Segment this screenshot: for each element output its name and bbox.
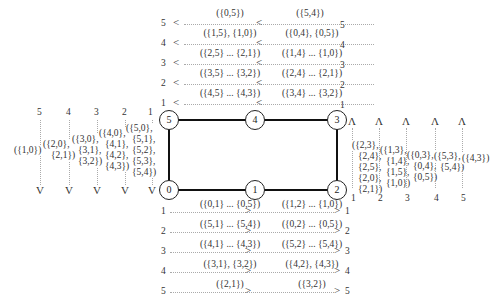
bottom-arrow-right: > (334, 265, 340, 276)
left-label-line: ({1,0}) (14, 145, 41, 156)
top-level-right: 1 (340, 100, 345, 111)
left-label-line: {5,2}, (132, 145, 155, 156)
right-level: 4 (434, 193, 439, 204)
left-arrow: V (36, 185, 44, 196)
node-1: 1 (245, 180, 265, 200)
left-level: 3 (94, 107, 99, 118)
right-label-line: ({5,3}, (434, 151, 461, 162)
right-level: 2 (378, 193, 383, 204)
right-arrow: Λ (402, 116, 410, 127)
top-arrow-mid: < (256, 17, 262, 28)
bottom-arrow-right: > (334, 285, 340, 296)
right-label-line: ({2,3}, (352, 140, 379, 151)
left-level: 1 (148, 107, 153, 118)
left-label-line: {3,1}, (78, 145, 101, 156)
top-level-left: 5 (161, 18, 166, 29)
bottom-arrow-mid: > (245, 225, 251, 236)
right-label-line: {2,4}, (358, 151, 381, 162)
node-2: 2 (327, 180, 347, 200)
right-arrow: Λ (348, 116, 356, 127)
right-level: 5 (461, 193, 466, 204)
left-arrow: V (148, 185, 156, 196)
left-arrow: V (121, 185, 129, 196)
top-dotted-line (184, 104, 374, 105)
right-label-line: {2,0}, (358, 173, 381, 184)
left-label-line: ({3,0}, (72, 134, 99, 145)
left-level: 4 (66, 107, 71, 118)
right-level: 1 (351, 193, 356, 204)
right-arrow: Λ (431, 116, 439, 127)
node-3: 3 (327, 110, 347, 130)
left-label-line: ({2,0}, (43, 139, 70, 150)
left-label-line: {5,3}, (132, 156, 155, 167)
bottom-dotted-line (170, 212, 334, 213)
top-level-left: 2 (161, 78, 166, 89)
node-5: 5 (159, 110, 179, 130)
left-arrow: V (65, 185, 73, 196)
left-label-line: {3,2}) (78, 156, 102, 167)
right-label-line: {0,5}) (413, 172, 437, 183)
node-4: 4 (245, 110, 265, 130)
left-label-line: {2,1}) (51, 150, 75, 161)
left-level: 5 (37, 107, 42, 118)
right-label-line: ({4,3}) (462, 153, 489, 164)
left-label-line: {4,1}, (105, 139, 128, 150)
bottom-arrow-right: > (334, 225, 340, 236)
top-right-label: ({2,4} ... {2,1}) (262, 68, 362, 79)
right-label-line: {5,4}) (440, 162, 464, 173)
bottom-dotted-line (170, 292, 334, 293)
right-dotted-line (352, 128, 353, 188)
bottom-level-right: 5 (345, 286, 350, 297)
right-level: 3 (405, 193, 410, 204)
bottom-dotted-line (170, 272, 334, 273)
left-label-line: ({5,0}, (126, 123, 153, 134)
top-right-label: ({1,4} ... {1,0}) (262, 48, 362, 59)
top-right-label: ({5,4}) (270, 8, 350, 19)
bottom-level-right: 4 (345, 266, 350, 277)
right-arrow: Λ (375, 116, 383, 127)
right-dotted-line (379, 128, 380, 188)
right-label-line: ({1,3}, (380, 145, 407, 156)
top-arrow-left: < (173, 97, 179, 108)
bottom-dotted-line (170, 252, 334, 253)
right-label-line: {0,4}, (413, 161, 436, 172)
left-label-line: {4,2}, (105, 150, 128, 161)
bottom-level-right: 3 (345, 246, 350, 257)
top-dotted-line (184, 44, 374, 45)
bottom-level-left: 5 (161, 286, 166, 297)
left-label-line: {4,3}) (105, 161, 129, 172)
top-arrow-left: < (173, 77, 179, 88)
top-arrow-left: < (173, 37, 179, 48)
top-level-left: 1 (161, 98, 166, 109)
top-right-label: ({3,4} ... {3,2}) (262, 88, 362, 99)
left-level: 2 (122, 107, 127, 118)
bottom-level-left: 2 (161, 226, 166, 237)
bottom-arrow-mid: > (245, 265, 251, 276)
left-arrow: V (93, 185, 101, 196)
left-label-line: {5,1}, (132, 134, 155, 145)
bottom-arrow-mid: > (245, 205, 251, 216)
top-dotted-line (184, 24, 374, 25)
top-arrow-left: < (173, 17, 179, 28)
bottom-arrow-right: > (334, 205, 340, 216)
left-label-line: ({4,0}, (99, 128, 126, 139)
top-dotted-line (184, 64, 374, 65)
bottom-level-right: 1 (345, 206, 350, 217)
bottom-arrow-right: > (334, 245, 340, 256)
bottom-level-right: 2 (345, 226, 350, 237)
bottom-arrow-mid: > (245, 285, 251, 296)
top-arrow-left: < (173, 57, 179, 68)
bottom-level-left: 3 (161, 246, 166, 257)
bottom-level-left: 4 (161, 266, 166, 277)
right-arrow: Λ (458, 116, 466, 127)
bottom-arrow-mid: > (245, 245, 251, 256)
top-level-left: 4 (161, 38, 166, 49)
right-label-line: ({0,3}, (407, 150, 434, 161)
bottom-level-left: 1 (161, 206, 166, 217)
bottom-dotted-line (170, 232, 334, 233)
top-dotted-line (184, 84, 374, 85)
top-level-left: 3 (161, 58, 166, 69)
right-label-line: {2,5}, (358, 162, 381, 173)
node-0: 0 (159, 180, 179, 200)
left-label-line: {5,4}) (132, 167, 156, 178)
